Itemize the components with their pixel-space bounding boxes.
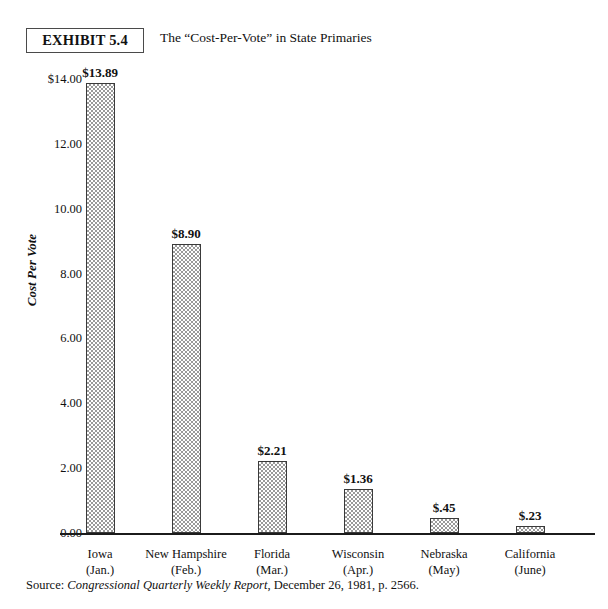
chart-plot-area: Cost Per Vote $14.0012.0010.008.006.004.… [0, 0, 608, 609]
bar [430, 518, 459, 533]
source-publication: Congressional Quarterly Weekly Report [67, 578, 267, 592]
y-axis-tick-label: 6.00 [22, 332, 82, 344]
bar-value-label: $8.90 [141, 226, 231, 242]
bar [258, 461, 287, 533]
category-name: New Hampshire [145, 547, 227, 561]
bar [172, 244, 201, 533]
bar-value-label: $1.36 [313, 471, 403, 487]
category-name: California [505, 547, 556, 561]
bar-value-label: $2.21 [227, 443, 317, 459]
y-axis-tick-label: 10.00 [22, 203, 82, 215]
bar [516, 526, 545, 533]
category-name: Iowa [88, 547, 113, 561]
source-note: Source: Congressional Quarterly Weekly R… [26, 578, 419, 593]
x-axis-category-label: California(June) [475, 546, 585, 578]
y-axis-tick-label: 12.00 [22, 138, 82, 150]
x-axis-line [60, 533, 595, 535]
y-axis-tick-label: 8.00 [22, 268, 82, 280]
source-suffix: , December 26, 1981, p. 2566. [267, 578, 418, 592]
bar-value-label: $.45 [399, 500, 489, 516]
bar [86, 83, 115, 533]
bar-value-label: $.23 [485, 508, 575, 524]
category-name: Florida [254, 547, 290, 561]
bar-value-label: $13.89 [55, 65, 145, 81]
bar [344, 489, 373, 533]
category-name: Nebraska [420, 547, 467, 561]
category-name: Wisconsin [332, 547, 384, 561]
category-month: (June) [475, 562, 585, 578]
y-axis-tick-label: 4.00 [22, 397, 82, 409]
y-axis-tick-label: 2.00 [22, 462, 82, 474]
source-prefix: Source: [26, 578, 67, 592]
y-axis-tick-labels: $14.0012.0010.008.006.004.002.000.00 [20, 0, 82, 609]
